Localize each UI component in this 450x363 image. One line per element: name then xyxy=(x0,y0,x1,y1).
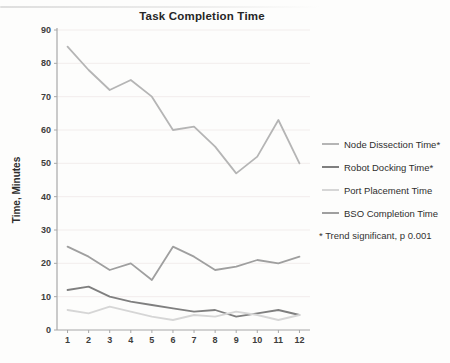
legend-item-label: Robot Docking Time* xyxy=(344,162,433,173)
y-tick-label: 10 xyxy=(41,292,51,302)
x-tick-label: 8 xyxy=(213,335,218,345)
x-tick-label: 5 xyxy=(149,335,154,345)
legend-item-label: Port Placement Time xyxy=(344,185,432,196)
x-tick-label: 1 xyxy=(65,335,70,345)
chart-canvas: Task Completion Time Time, Minutes 01020… xyxy=(0,0,450,363)
x-tick-label: 3 xyxy=(107,335,112,345)
legend-item: Robot Docking Time* xyxy=(322,161,448,173)
legend-item: BSO Completion Time xyxy=(322,207,448,219)
y-tick-label: 80 xyxy=(41,58,51,68)
significance-note: * Trend significant, p 0.001 xyxy=(319,230,447,241)
x-tick-label: 9 xyxy=(234,335,239,345)
y-tick-label: 90 xyxy=(41,25,51,35)
y-tick-label: 60 xyxy=(41,125,51,135)
x-tick-labels: 123456789101112 xyxy=(65,330,304,345)
legend-item-label: BSO Completion Time xyxy=(344,208,438,219)
x-tick-label: 6 xyxy=(170,335,175,345)
y-tick-labels: 0102030405060708090 xyxy=(41,25,57,335)
legend-item-label: Node Dissection Time* xyxy=(344,139,440,150)
x-tick-label: 7 xyxy=(192,335,197,345)
x-tick-label: 2 xyxy=(86,335,91,345)
x-tick-label: 4 xyxy=(128,335,133,345)
legend-line-swatch xyxy=(322,212,339,214)
legend-line-swatch xyxy=(322,166,339,168)
y-tick-label: 20 xyxy=(41,258,51,268)
x-tick-label: 10 xyxy=(252,335,262,345)
y-tick-label: 30 xyxy=(41,225,51,235)
legend-line-swatch xyxy=(322,189,339,191)
legend: Node Dissection Time*Robot Docking Time*… xyxy=(322,138,448,230)
x-tick-label: 12 xyxy=(294,335,304,345)
y-gridlines xyxy=(57,30,310,297)
y-tick-label: 70 xyxy=(41,92,51,102)
series-line-1 xyxy=(68,287,300,317)
axes xyxy=(57,28,310,330)
legend-item: Node Dissection Time* xyxy=(322,138,448,150)
y-tick-label: 50 xyxy=(41,158,51,168)
legend-line-swatch xyxy=(322,143,339,145)
series-line-2 xyxy=(68,307,300,320)
x-tick-label: 11 xyxy=(274,335,284,345)
series-line-0 xyxy=(68,47,300,174)
y-tick-label: 0 xyxy=(46,325,51,335)
legend-item: Port Placement Time xyxy=(322,184,448,196)
series-lines xyxy=(68,47,300,320)
y-tick-label: 40 xyxy=(41,192,51,202)
